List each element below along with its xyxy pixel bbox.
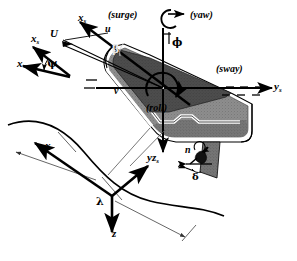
label-roll: (roll) (146, 103, 167, 113)
lambda-arrow-right (115, 201, 185, 237)
earth-fixed-axes (35, 143, 148, 232)
label-rudder-angle-delta: δ (192, 172, 199, 182)
label-roll-angle-phi: ϕ (172, 37, 182, 48)
label-axis-x-earth: x (45, 140, 51, 151)
label-axis-z-earth: z (112, 228, 116, 239)
yaw-arc (161, 10, 176, 28)
label-velocity-v: v (114, 86, 118, 96)
diagram-canvas (0, 0, 297, 261)
roll-angle-indicator (163, 32, 171, 44)
label-axis-zs-sub: s (156, 157, 159, 165)
label-shaft-speed-n: n (185, 145, 191, 155)
label-axis-y-earth: y (147, 152, 152, 163)
label-inset-xs: xs (31, 33, 39, 46)
label-drift-angle-beta: β (112, 44, 119, 55)
label-wavelength-lambda: λ (96, 196, 104, 207)
label-yaw: (yaw) (190, 10, 213, 20)
propeller-blade-lower (190, 158, 197, 164)
label-axis-ys-sub: s (279, 86, 282, 94)
label-axis-xs-sub: s (84, 17, 87, 25)
label-heading-angle-psi: ψ (47, 58, 57, 69)
label-inset-xs-sub: s (37, 38, 40, 46)
label-axis-ys: ys (274, 81, 282, 94)
label-sway: (sway) (216, 64, 243, 74)
label-surge: (surge) (108, 10, 137, 20)
label-axis-zs: zs (152, 152, 159, 165)
label-velocity-U: U (50, 28, 58, 39)
axis-y-earth (112, 166, 148, 196)
wavelength-measure (16, 128, 196, 241)
lambda-leg-right (182, 225, 196, 241)
label-velocity-u: u (105, 24, 111, 34)
ship-motion-diagram: (surge) (sway) (yaw) (roll) xs ys zs x y… (0, 0, 297, 261)
yaw-rotation-arrow (161, 10, 184, 28)
label-axis-xs: xs (78, 12, 86, 25)
label-inset-x: x (17, 58, 23, 69)
